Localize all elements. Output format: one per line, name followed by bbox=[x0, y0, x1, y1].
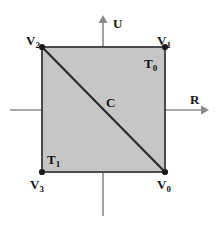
vertex-label-v0: V0 bbox=[157, 176, 171, 192]
vertex-dot-v3 bbox=[39, 169, 45, 175]
vertex-label-v1: V1 bbox=[157, 32, 171, 48]
vertex-label-v0-sub: 0 bbox=[167, 184, 172, 194]
vertex-label-v3-main: V bbox=[30, 177, 39, 192]
vertex-label-v0-main: V bbox=[157, 177, 166, 192]
triangle-label-t0-sub: 0 bbox=[153, 63, 158, 73]
arrow-up-icon bbox=[99, 15, 108, 23]
vertex-label-v1-main: V bbox=[157, 33, 166, 48]
u-axis-label: U bbox=[113, 17, 122, 30]
triangle-label-t1: T1 bbox=[47, 151, 60, 167]
geometry-figure: U R C V2 V1 V3 V0 T0 T1 bbox=[0, 0, 220, 226]
triangle-label-t0: T0 bbox=[144, 55, 157, 71]
vertex-label-v1-sub: 1 bbox=[167, 40, 172, 50]
center-label-text: C bbox=[106, 95, 115, 110]
vertex-label-v2: V2 bbox=[26, 32, 40, 48]
r-axis-label: R bbox=[190, 93, 199, 106]
triangle-label-t0-main: T bbox=[144, 56, 153, 71]
center-label: C bbox=[106, 96, 115, 109]
vertex-label-v2-sub: 2 bbox=[36, 40, 41, 50]
arrow-right-icon bbox=[201, 106, 209, 115]
vertex-label-v3-sub: 3 bbox=[40, 184, 45, 194]
u-axis-label-text: U bbox=[113, 16, 122, 31]
vertex-label-v3: V3 bbox=[30, 176, 44, 192]
triangle-label-t1-main: T bbox=[47, 152, 56, 167]
vertex-dot-v0 bbox=[162, 169, 168, 175]
triangle-label-t1-sub: 1 bbox=[56, 159, 61, 169]
vertex-label-v2-main: V bbox=[26, 33, 35, 48]
r-axis-label-text: R bbox=[190, 92, 199, 107]
